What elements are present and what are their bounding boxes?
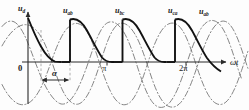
output-voltage-ud-curve xyxy=(28,18,221,72)
label-uca-sub: ca xyxy=(173,10,178,16)
x-tick-label-pi: π xyxy=(102,64,106,73)
label-ud-sub: d xyxy=(23,8,26,14)
label-ubc-main: u xyxy=(115,6,120,15)
label-uca-main: u xyxy=(168,6,173,15)
label-uab-2: uab xyxy=(199,8,209,16)
waveform-canvas xyxy=(0,0,249,110)
label-uab-1: uab xyxy=(63,7,73,15)
waveform-figure: ud uab ubc uca uab 0 π 2π ωt α xyxy=(0,0,249,110)
x-tick-label-2pi: 2π xyxy=(179,64,188,73)
label-uab-2-sub: ab xyxy=(204,11,209,17)
label-uab-2-main: u xyxy=(199,7,204,16)
ud-segment-2 xyxy=(70,19,114,62)
x-axis-label: ωt xyxy=(230,58,238,67)
firing-angle-label: α xyxy=(52,69,57,78)
label-ud: ud xyxy=(18,5,25,13)
label-uab-1-main: u xyxy=(63,6,68,15)
label-uca: uca xyxy=(168,7,177,15)
label-ubc: ubc xyxy=(115,7,124,15)
origin-label: 0 xyxy=(18,64,22,73)
label-ud-main: u xyxy=(18,4,23,13)
label-uab-1-sub: ab xyxy=(68,10,73,16)
label-ubc-sub: bc xyxy=(120,10,125,16)
